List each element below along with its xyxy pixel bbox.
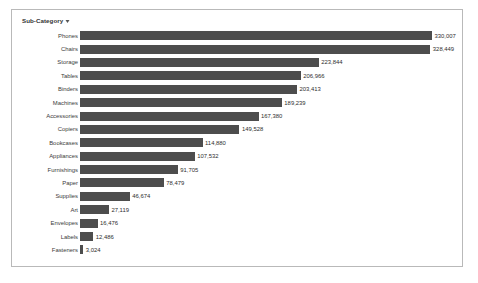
bar-value-label: 3,024 [83, 247, 100, 253]
bar-track: 27,119 [80, 203, 462, 216]
bar-row[interactable]: Fasteners3,024 [12, 243, 462, 256]
bar-row[interactable]: Supplies46,674 [12, 190, 462, 203]
bar-value-label: 46,674 [130, 193, 151, 199]
bar-track: 206,966 [80, 69, 462, 82]
bar[interactable] [80, 219, 98, 228]
bar-track: 189,239 [80, 96, 462, 109]
bar-value-label: 206,966 [301, 73, 325, 79]
bar[interactable] [80, 192, 130, 201]
bar-value-label: 12,486 [93, 234, 114, 240]
chart-container: Sub-Category Phones330,007Chairs328,449S… [11, 9, 463, 267]
bar-row[interactable]: Phones330,007 [12, 29, 462, 42]
sort-descending-icon[interactable] [65, 19, 70, 24]
bar[interactable] [80, 31, 432, 40]
bar-row[interactable]: Paper78,479 [12, 176, 462, 189]
bar-track: 223,844 [80, 56, 462, 69]
bar-category-label: Paper [12, 180, 80, 186]
bar[interactable] [80, 178, 164, 187]
bar-track: 91,705 [80, 163, 462, 176]
bar-row[interactable]: Tables206,966 [12, 69, 462, 82]
bar-row[interactable]: Furnishings91,705 [12, 163, 462, 176]
bar[interactable] [80, 205, 109, 214]
bar-track: 46,674 [80, 190, 462, 203]
bar[interactable] [80, 71, 301, 80]
bar-row[interactable]: Chairs328,449 [12, 42, 462, 55]
bar-track: 107,532 [80, 150, 462, 163]
bar-row[interactable]: Copiers149,528 [12, 123, 462, 136]
bar-category-label: Phones [12, 33, 80, 39]
page-title: Sub-Category [22, 17, 63, 24]
bar-track: 12,486 [80, 230, 462, 243]
bar-row[interactable]: Labels12,486 [12, 230, 462, 243]
bar-row[interactable]: Accessories167,380 [12, 109, 462, 122]
bar-track: 330,007 [80, 29, 462, 42]
bar-value-label: 328,449 [430, 46, 454, 52]
bar-category-label: Art [12, 207, 80, 213]
bar-value-label: 91,705 [178, 167, 199, 173]
bar-value-label: 27,119 [109, 207, 129, 213]
bar-category-label: Fasteners [12, 247, 80, 253]
bar[interactable] [80, 152, 195, 161]
bar-value-label: 167,380 [259, 113, 283, 119]
bar[interactable] [80, 85, 297, 94]
bar-value-label: 189,239 [282, 100, 306, 106]
bar-category-label: Tables [12, 73, 80, 79]
bar[interactable] [80, 232, 93, 241]
bar-track: 167,380 [80, 109, 462, 122]
bar[interactable] [80, 138, 203, 147]
bar-value-label: 223,844 [319, 59, 343, 65]
bar-category-label: Machines [12, 100, 80, 106]
bar[interactable] [80, 165, 178, 174]
bar[interactable] [80, 58, 319, 67]
bar-row[interactable]: Envelopes16,476 [12, 216, 462, 229]
bar-track: 114,880 [80, 136, 462, 149]
bar-value-label: 16,476 [98, 220, 119, 226]
bar-value-label: 78,479 [164, 180, 185, 186]
bar-track: 3,024 [80, 243, 462, 256]
bar-category-label: Bookcases [12, 140, 80, 146]
bar-track: 203,413 [80, 83, 462, 96]
bar-category-label: Copiers [12, 126, 80, 132]
bar-category-label: Furnishings [12, 167, 80, 173]
bar-row[interactable]: Art27,119 [12, 203, 462, 216]
bar-track: 328,449 [80, 42, 462, 55]
bar-row[interactable]: Appliances107,532 [12, 150, 462, 163]
bar-category-label: Accessories [12, 113, 80, 119]
bar-row[interactable]: Binders203,413 [12, 83, 462, 96]
bar-row[interactable]: Storage223,844 [12, 56, 462, 69]
bar-category-label: Supplies [12, 193, 80, 199]
bar-row[interactable]: Machines189,239 [12, 96, 462, 109]
bar-track: 78,479 [80, 176, 462, 189]
bar[interactable] [80, 125, 239, 134]
bar-category-label: Envelopes [12, 220, 80, 226]
bar-chart-plot: Phones330,007Chairs328,449Storage223,844… [12, 29, 462, 257]
bar[interactable] [80, 112, 259, 121]
bar-category-label: Storage [12, 59, 80, 65]
bar-value-label: 114,880 [203, 140, 226, 146]
bar[interactable] [80, 45, 430, 54]
bar-category-label: Labels [12, 234, 80, 240]
bar-category-label: Chairs [12, 46, 80, 52]
bar-row[interactable]: Bookcases114,880 [12, 136, 462, 149]
bar-value-label: 330,007 [432, 33, 456, 39]
sub-category-header[interactable]: Sub-Category [22, 17, 70, 24]
bar-value-label: 203,413 [297, 86, 321, 92]
bar-value-label: 107,532 [195, 153, 219, 159]
bar-category-label: Appliances [12, 153, 80, 159]
bar[interactable] [80, 98, 282, 107]
bar-track: 149,528 [80, 123, 462, 136]
bar-category-label: Binders [12, 86, 80, 92]
bar-track: 16,476 [80, 216, 462, 229]
bar-value-label: 149,528 [239, 126, 263, 132]
